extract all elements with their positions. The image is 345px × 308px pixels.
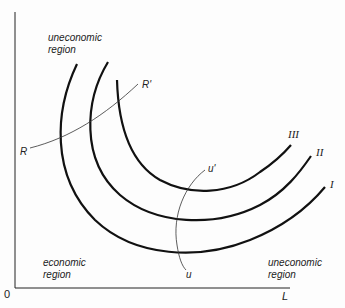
- diagram-svg: III II I R R' u' u uneconomic region eco…: [0, 0, 345, 308]
- origin-label: 0: [4, 288, 10, 300]
- x-axis-label: L: [282, 290, 288, 302]
- isoquant-curve-III: [117, 80, 291, 191]
- curve-label-I: I: [329, 178, 335, 190]
- ridge-label-R: R: [20, 146, 27, 157]
- curve-label-II: II: [315, 146, 325, 158]
- ridge-label-u: u: [186, 269, 192, 280]
- ridge-label-u-prime: u': [208, 163, 217, 174]
- region-label-top-left-line2: region: [48, 44, 76, 55]
- isoquant-curve-II: [90, 62, 311, 220]
- region-label-bottom-left-line1: economic: [43, 257, 86, 268]
- ridge-label-R-prime: R': [142, 79, 152, 90]
- region-label-top-left-line1: uneconomic: [48, 32, 102, 43]
- isoquant-diagram: III II I R R' u' u uneconomic region eco…: [0, 0, 345, 308]
- region-label-bottom-right-line1: uneconomic: [268, 257, 322, 268]
- curve-label-III: III: [287, 128, 300, 140]
- isoquant-curve-I: [61, 64, 325, 253]
- region-label-bottom-left-line2: region: [43, 269, 71, 280]
- region-label-bottom-right-line2: region: [268, 269, 296, 280]
